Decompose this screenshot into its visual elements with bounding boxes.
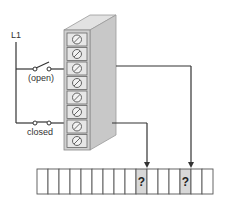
unknown-value: ? — [138, 175, 145, 189]
bit-register: ?? — [37, 169, 213, 194]
unknown-value: ? — [182, 175, 189, 189]
register-cell — [103, 169, 114, 194]
register-cell — [125, 169, 136, 194]
register-cell — [147, 169, 158, 194]
closed-switch — [16, 121, 68, 125]
register-cell — [48, 169, 59, 194]
open-switch — [16, 62, 68, 71]
open-switch-label: (open) — [28, 73, 54, 83]
l1-label: L1 — [11, 30, 21, 40]
register-cell — [169, 169, 180, 194]
register-cell — [158, 169, 169, 194]
closed-switch-label: closed — [27, 127, 53, 137]
register-cell — [37, 169, 48, 194]
arrow-icon — [188, 162, 194, 168]
register-cell — [59, 169, 70, 194]
register-cell — [70, 169, 81, 194]
register-cell — [114, 169, 125, 194]
register-cell — [191, 169, 202, 194]
register-cell — [81, 169, 92, 194]
register-cell — [202, 169, 213, 194]
register-cell — [92, 169, 103, 194]
arrow-icon — [144, 162, 150, 168]
wiring-diagram: L1 (open) closed ?? — [0, 0, 226, 208]
